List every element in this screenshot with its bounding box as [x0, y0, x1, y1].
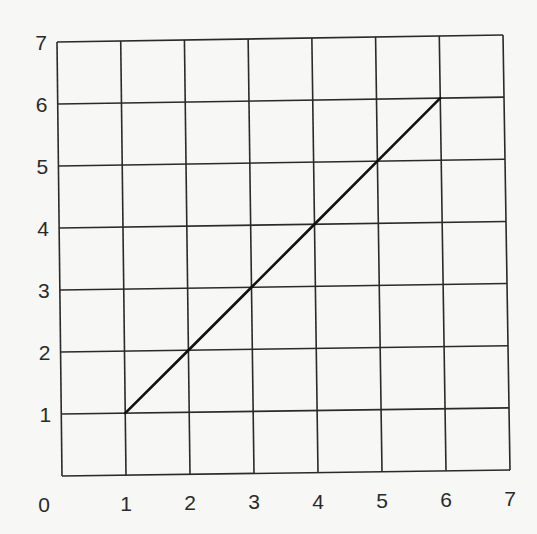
y-tick-label: 1 — [39, 403, 51, 426]
grid-line-vertical — [121, 41, 126, 475]
grid-line-horizontal — [62, 470, 510, 476]
grid-line-vertical — [439, 36, 446, 471]
y-tick-label: 6 — [36, 93, 48, 116]
grid-line-vertical — [57, 42, 62, 476]
x-tick-label: 6 — [440, 488, 452, 511]
x-axis-tick-labels: 01234567 — [38, 487, 516, 516]
y-tick-label: 7 — [35, 31, 47, 54]
grid-line-vertical — [184, 40, 190, 474]
x-tick-label: 0 — [38, 493, 50, 516]
x-tick-label: 1 — [120, 492, 132, 515]
grid-line-horizontal — [58, 159, 505, 166]
grid-line-vertical — [312, 38, 318, 473]
x-tick-label: 5 — [376, 489, 388, 512]
grid-line-vertical — [248, 39, 254, 473]
x-tick-label: 7 — [504, 487, 516, 510]
grid-line-horizontal — [61, 346, 508, 352]
grid-line-horizontal — [60, 284, 507, 290]
x-tick-label: 3 — [248, 490, 260, 513]
grid-line-horizontal — [57, 35, 503, 42]
data-line — [125, 98, 440, 413]
y-tick-label: 5 — [37, 155, 49, 178]
grid-line-horizontal — [59, 221, 506, 228]
y-axis-tick-labels: 1234567 — [35, 31, 51, 426]
data-series — [125, 98, 440, 413]
x-tick-label: 4 — [312, 490, 324, 513]
y-tick-label: 2 — [39, 341, 51, 364]
x-tick-label: 2 — [184, 491, 196, 514]
chart-canvas: 01234567 1234567 — [0, 0, 537, 534]
y-tick-label: 3 — [38, 279, 50, 302]
grid-line-vertical — [503, 35, 510, 470]
grid-line-vertical — [376, 37, 382, 472]
y-tick-label: 4 — [37, 217, 49, 240]
